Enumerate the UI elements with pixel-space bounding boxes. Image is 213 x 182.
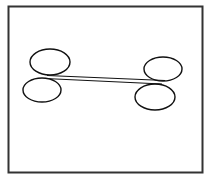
diagram-frame xyxy=(9,7,203,173)
top-left-ellipse xyxy=(30,49,70,75)
ellipse-group xyxy=(23,49,182,110)
connector-line-group xyxy=(45,76,165,85)
diagram-canvas xyxy=(0,0,213,182)
bottom-left-ellipse xyxy=(23,78,61,102)
top-right-ellipse xyxy=(144,57,182,81)
bottom-right-ellipse xyxy=(135,84,175,110)
